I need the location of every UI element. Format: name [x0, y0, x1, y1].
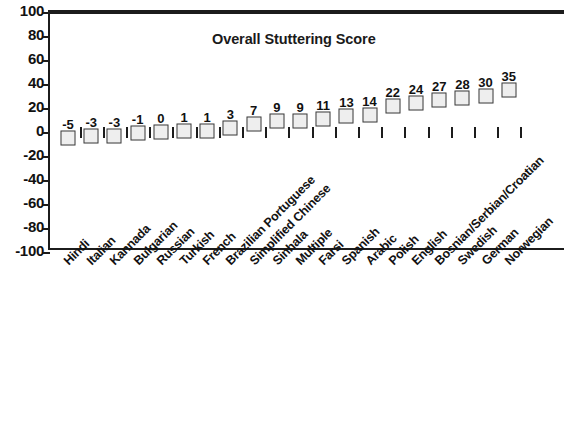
y-tick-label: -20: [0, 147, 44, 162]
data-point-marker: [293, 114, 308, 129]
data-point-label: 0: [157, 112, 164, 125]
data-point-label: 27: [432, 80, 446, 93]
y-tick-mark: [43, 36, 50, 38]
y-tick-mark: [43, 108, 50, 110]
x-tick-mark: [312, 127, 314, 138]
data-point-marker: [362, 108, 377, 123]
data-point-label: -1: [132, 113, 144, 126]
y-tick-mark: [43, 84, 50, 86]
y-tick-label: 80: [0, 27, 44, 42]
data-point-marker: [501, 83, 516, 98]
data-point-marker: [339, 109, 354, 124]
x-tick-mark: [381, 127, 383, 138]
data-point-label: 14: [362, 95, 376, 108]
y-tick-mark: [43, 228, 50, 230]
y-tick-label: 20: [0, 99, 44, 114]
data-point-label: 22: [386, 86, 400, 99]
x-tick-mark: [172, 127, 174, 138]
x-tick-mark: [404, 127, 406, 138]
data-point-label: 9: [273, 101, 280, 114]
x-tick-mark: [126, 127, 128, 138]
y-tick-mark: [43, 156, 50, 158]
data-point-label: 1: [180, 111, 187, 124]
data-point-label: 11: [316, 99, 330, 112]
x-tick-mark: [428, 127, 430, 138]
y-tick-label: 0: [0, 123, 44, 138]
data-point-marker: [153, 125, 168, 140]
y-tick-mark: [43, 204, 50, 206]
chart-title: Overall Stuttering Score: [212, 31, 376, 47]
x-axis-category-labels: HindiItalianKannadaBulgarianRussianTurki…: [0, 250, 552, 422]
y-tick-label: 100: [0, 3, 44, 18]
data-point-label: 35: [502, 70, 516, 83]
y-tick-label: 40: [0, 75, 44, 90]
x-tick-mark: [196, 127, 198, 138]
data-point-marker: [269, 114, 284, 129]
x-tick-mark: [265, 127, 267, 138]
data-point-label: -3: [85, 116, 97, 129]
y-tick-label: 60: [0, 51, 44, 66]
x-tick-mark: [358, 127, 360, 138]
data-point-label: 7: [250, 104, 257, 117]
data-point-marker: [200, 123, 215, 138]
y-tick-mark: [43, 60, 50, 62]
x-tick-mark: [149, 127, 151, 138]
x-tick-mark: [451, 127, 453, 138]
y-tick-mark: [43, 12, 50, 14]
data-point-marker: [61, 131, 76, 146]
x-tick-mark: [242, 127, 244, 138]
data-point-marker: [246, 116, 261, 131]
y-tick-label: -60: [0, 195, 44, 210]
data-point-label: 24: [409, 83, 423, 96]
x-tick-mark: [219, 127, 221, 138]
y-tick-label: -40: [0, 171, 44, 186]
data-point-marker: [84, 128, 99, 143]
data-point-label: -5: [62, 118, 74, 131]
data-point-marker: [223, 121, 238, 136]
data-point-marker: [409, 96, 424, 111]
data-point-marker: [177, 123, 192, 138]
x-tick-mark: [497, 127, 499, 138]
data-point-marker: [316, 111, 331, 126]
y-tick-label: -80: [0, 219, 44, 234]
data-point-marker: [130, 126, 145, 141]
data-point-marker: [455, 91, 470, 106]
data-point-label: 3: [227, 108, 234, 121]
x-tick-mark: [103, 127, 105, 138]
x-tick-mark: [335, 127, 337, 138]
zero-axis-line: [50, 12, 564, 14]
x-tick-mark: [288, 127, 290, 138]
x-tick-mark: [520, 127, 522, 138]
data-point-marker: [432, 92, 447, 107]
x-tick-mark: [474, 127, 476, 138]
data-point-label: 30: [478, 76, 492, 89]
data-point-label: 28: [455, 78, 469, 91]
y-tick-mark: [43, 132, 50, 134]
y-tick-mark: [43, 180, 50, 182]
x-tick-mark: [80, 127, 82, 138]
data-point-label: 13: [339, 96, 353, 109]
data-point-label: 1: [204, 111, 211, 124]
data-point-marker: [478, 89, 493, 104]
data-point-label: 9: [296, 101, 303, 114]
data-point-marker: [107, 128, 122, 143]
data-point-marker: [385, 98, 400, 113]
data-point-label: -3: [109, 116, 121, 129]
